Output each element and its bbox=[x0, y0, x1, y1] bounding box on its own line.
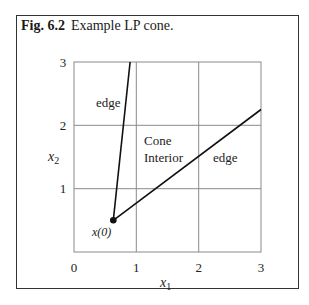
tick-labels: 0 1 2 3 1 2 3 bbox=[60, 55, 265, 275]
cone-plot: 0 1 2 3 1 2 3 x1 x2 edge Cone Interior e… bbox=[0, 0, 309, 305]
edge-line-shallow bbox=[113, 110, 261, 221]
edge-line-steep bbox=[113, 62, 130, 220]
y-axis-label: x2 bbox=[47, 149, 59, 166]
origin-point-marker bbox=[110, 217, 117, 224]
svg-text:x1: x1 bbox=[159, 275, 171, 292]
edge-label-right: edge bbox=[213, 150, 238, 165]
tick-y-1: 1 bbox=[60, 181, 67, 196]
tick-y-2: 2 bbox=[60, 118, 67, 133]
tick-y-3: 3 bbox=[60, 55, 67, 70]
x-axis-label: x1 bbox=[159, 275, 171, 292]
origin-point-label: x(0) bbox=[91, 225, 111, 239]
cone-interior-label-line2: Interior bbox=[144, 150, 184, 165]
tick-x-2: 2 bbox=[195, 260, 202, 275]
tick-x-0: 0 bbox=[71, 260, 78, 275]
tick-x-3: 3 bbox=[258, 260, 265, 275]
cone-interior-label-line1: Cone bbox=[144, 133, 172, 148]
cone-edges bbox=[113, 62, 261, 220]
edge-label-left: edge bbox=[96, 95, 121, 110]
svg-text:x2: x2 bbox=[47, 149, 59, 166]
tick-x-1: 1 bbox=[133, 260, 140, 275]
